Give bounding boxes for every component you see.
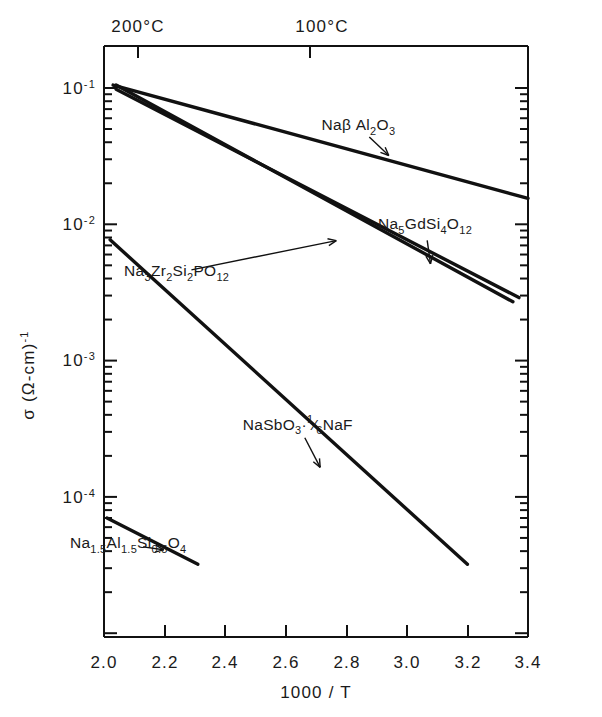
top-axis-ticks (138, 46, 310, 58)
top-tick-label-100c: 100°C (295, 17, 348, 36)
x-tick-label: 2.4 (211, 653, 238, 672)
y-tick-label: 10-2 (63, 214, 97, 234)
x-tick-label: 2.2 (151, 653, 178, 672)
figure-container: 200°C 100°C 2.0 2.2 2.4 2.6 2.8 3.0 3.2 … (0, 0, 602, 717)
series-line-3 (110, 240, 467, 565)
series-line-0 (113, 85, 528, 198)
arrhenius-conductivity-chart: 200°C 100°C 2.0 2.2 2.4 2.6 2.8 3.0 3.2 … (0, 0, 602, 717)
top-tick-label-200c: 200°C (111, 17, 164, 36)
arrow-shaft-0 (369, 137, 389, 156)
y-tick-labels: 10-1 10-2 10-3 10-4 (63, 78, 97, 507)
x-tick-label: 3.0 (393, 653, 420, 672)
series-label-3: NaSbO3·1⁄6NaF (243, 414, 353, 435)
x-axis-title: 1000 / T (280, 683, 352, 702)
y-tick-label: 10-3 (63, 350, 97, 370)
series-lines (107, 85, 528, 564)
series-label-4: Na1.5Al1.5Si0.5O4 (70, 535, 187, 554)
arrow-head-3-1 (320, 458, 321, 467)
arrow-head-2-1 (328, 239, 337, 241)
annotation-arrows (143, 137, 433, 552)
y-tick-label: 10-4 (63, 487, 97, 507)
x-tick-labels: 2.0 2.2 2.4 2.6 2.8 3.0 3.2 3.4 (90, 653, 541, 672)
series-label-0: Naβ Al2O3 (321, 117, 395, 136)
arrow-shaft-3 (305, 438, 320, 468)
x-tick-label: 2.8 (333, 653, 360, 672)
series-label-2: Na3Zr2Si2PO12 (124, 263, 229, 282)
series-label-1: Na5GdSi4O12 (378, 216, 472, 235)
x-tick-label: 3.4 (514, 653, 541, 672)
x-axis-ticks (104, 625, 528, 637)
x-tick-label: 2.0 (90, 653, 117, 672)
y-tick-label: 10-1 (63, 78, 97, 98)
x-tick-label: 2.6 (272, 653, 299, 672)
y-axis-title: σ (Ω-cm)-1 (18, 330, 38, 419)
x-tick-label: 3.2 (454, 653, 481, 672)
